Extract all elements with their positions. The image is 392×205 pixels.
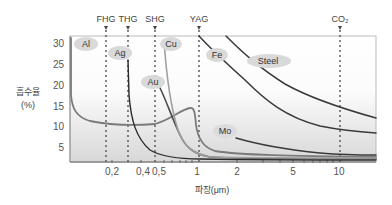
- y-tick-25: 25: [53, 59, 65, 70]
- y-tick-15: 15: [53, 101, 65, 112]
- y-axis-unit: (%): [21, 100, 35, 110]
- mo-label-text: Mo: [219, 126, 232, 136]
- ag-label: Ag: [108, 46, 132, 60]
- co2-label: CO₂: [332, 14, 350, 24]
- cu-label-text: Cu: [165, 39, 177, 49]
- steel-label-text: Steel: [258, 56, 279, 66]
- fe-label: Fe: [206, 48, 228, 62]
- yag-marker-icon: [197, 26, 201, 30]
- steel-label: Steel: [247, 54, 291, 68]
- x-tick-5: 5: [290, 166, 296, 177]
- x-tick-0.4: 0,4: [136, 166, 150, 177]
- thg-label: THG: [119, 14, 138, 24]
- x-tick-10: 10: [333, 166, 345, 177]
- laser-markers: [104, 26, 342, 30]
- yag-label: YAG: [190, 14, 208, 24]
- fhg-label: FHG: [97, 14, 116, 24]
- laser-labels: FHG THG SHG YAG CO₂: [97, 14, 350, 24]
- cu-label: Cu: [160, 37, 182, 51]
- x-tick-1: 1: [194, 166, 200, 177]
- x-tick-0.5: 0,5: [152, 166, 166, 177]
- y-axis-title: 흡수율: [16, 86, 40, 97]
- ag-label-text: Ag: [114, 48, 125, 58]
- al-label: Al: [74, 37, 98, 51]
- y-tick-labels: 30 25 20 15 10 5: [53, 38, 65, 153]
- y-tick-5: 5: [58, 142, 64, 153]
- shg-label: SHG: [145, 14, 165, 24]
- shg-marker-icon: [153, 26, 157, 30]
- x-tick-labels: 0,2 0,4 0,5 1 2 5 10: [105, 166, 345, 177]
- au-label-text: Au: [147, 77, 158, 87]
- co2-marker-icon: [338, 26, 342, 30]
- x-axis-title: 파장(μm): [195, 185, 230, 195]
- x-tick-0.2: 0,2: [105, 166, 119, 177]
- fe-label-text: Fe: [212, 50, 223, 60]
- y-tick-30: 30: [53, 38, 65, 49]
- au-label: Au: [141, 75, 165, 89]
- x-tick-2: 2: [234, 166, 240, 177]
- fhg-marker-icon: [104, 26, 108, 30]
- al-label-text: Al: [82, 39, 90, 49]
- y-tick-10: 10: [53, 121, 65, 132]
- thg-marker-icon: [126, 26, 130, 30]
- mo-label: Mo: [213, 124, 237, 138]
- y-tick-20: 20: [53, 80, 65, 91]
- absorption-chart: 30 25 20 15 10 5 흡수율 (%) 0,2 0,4 0,5 1 2…: [0, 0, 392, 205]
